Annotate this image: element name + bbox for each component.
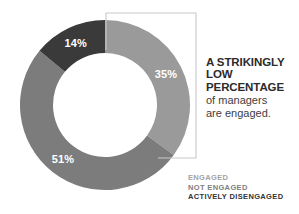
legend-item-engaged[interactable]: ENGAGED [188, 173, 283, 183]
legend-item-actively-disengaged[interactable]: ACTIVELY DISENGAGED [188, 192, 283, 202]
slice-label-engaged: 35% [155, 68, 178, 80]
headline-line-5: are engaged. [206, 107, 298, 120]
legend-item-not-engaged[interactable]: NOT ENGAGED [188, 183, 283, 193]
callout-headline: A STRIKINGLY LOW PERCENTAGE of managers … [206, 56, 298, 119]
headline-line-1: A STRIKINGLY [206, 56, 298, 68]
slice-label-actively-disengaged: 14% [64, 37, 87, 49]
headline-line-3: PERCENTAGE [206, 81, 298, 93]
chart-legend: ENGAGED NOT ENGAGED ACTIVELY DISENGAGED [188, 173, 283, 202]
headline-subtext: of managers are engaged. [206, 94, 298, 119]
headline-line-4: of managers [206, 94, 298, 107]
slice-label-not-engaged: 51% [52, 153, 75, 165]
donut-chart: 35% 51% 14% [0, 0, 200, 214]
engagement-donut-infographic: 35% 51% 14% A STRIKINGLY LOW PERCENTAGE … [0, 0, 299, 214]
headline-line-2: LOW [206, 68, 298, 80]
slice-engaged[interactable] [105, 20, 190, 155]
donut-chart-svg: 35% 51% 14% [0, 0, 200, 214]
headline-emphasis: A STRIKINGLY LOW PERCENTAGE [206, 56, 298, 93]
